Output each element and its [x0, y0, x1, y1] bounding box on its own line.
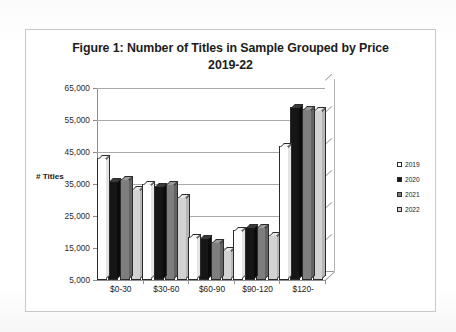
y-axis-tick-label: 65,000 [65, 83, 90, 93]
x-axis-category-label: $30-60 [153, 284, 179, 294]
bar-2022-$90-120[interactable] [268, 235, 278, 280]
bar-2019-$60-90[interactable] [188, 237, 198, 280]
y-axis-back-edge [334, 79, 335, 271]
bar-side-face [151, 181, 155, 279]
chart-title-line-2: 2019-22 [38, 57, 423, 74]
chart-title-line-1: Figure 1: Number of Titles in Sample Gro… [38, 40, 423, 57]
bar-2020-$30-60[interactable] [154, 186, 164, 280]
bar-side-face [106, 156, 110, 279]
bar-side-face [174, 181, 178, 279]
bar-side-face [242, 228, 246, 279]
bar-2019-$120-[interactable] [279, 146, 289, 280]
bar-side-face [129, 176, 133, 279]
y-axis-tick-label: 55,000 [65, 115, 90, 125]
bar-2021-$120-[interactable] [302, 109, 312, 280]
x-axis-category-label: $60-90 [199, 284, 225, 294]
x-axis-tick [325, 280, 326, 284]
bar-group [279, 88, 324, 280]
bar-side-face [254, 224, 258, 279]
y-axis-tick [93, 280, 97, 281]
legend-item-2020[interactable]: 2020 [397, 172, 439, 187]
bar-2020-$90-120[interactable] [245, 227, 255, 280]
y-axis-title: # Titles [36, 172, 64, 181]
bar-2022-$30-60[interactable] [177, 197, 187, 280]
bar-side-face [265, 224, 269, 279]
y-axis-tick-label: 15,000 [65, 243, 90, 253]
bar-2019-$30-60[interactable] [142, 184, 152, 280]
x-axis-category-label: $90-120 [242, 284, 273, 294]
chart-title: Figure 1: Number of Titles in Sample Gro… [38, 40, 423, 74]
bar-side-face [311, 106, 315, 279]
bar-group [188, 88, 233, 280]
bar-2019-$0-30[interactable] [97, 158, 107, 280]
legend-label-2022: 2022 [405, 206, 420, 213]
legend-swatch-2021 [397, 192, 402, 197]
x-axis-line [97, 280, 325, 281]
legend-swatch-2020 [397, 177, 402, 182]
y-axis-tick-label: 5,000 [69, 275, 90, 285]
y-axis-tick-label: 35,000 [65, 179, 90, 189]
bar-side-face [288, 143, 292, 279]
bar-group [142, 88, 187, 280]
bar-side-face [322, 108, 326, 279]
bar-side-face [197, 234, 201, 279]
x-axis-tick [234, 280, 235, 284]
y-axis-tick-label: 45,000 [65, 147, 90, 157]
legend-label-2021: 2021 [405, 191, 420, 198]
bar-2019-$90-120[interactable] [233, 230, 243, 280]
legend-swatch-2022 [397, 207, 402, 212]
x-axis-tick [143, 280, 144, 284]
bar-side-face [299, 104, 303, 279]
bar-group [97, 88, 142, 280]
bar-side-face [117, 178, 121, 279]
bar-group [233, 88, 278, 280]
legend-label-2020: 2020 [405, 176, 420, 183]
legend-swatch-2019 [397, 162, 402, 167]
bar-side-face [163, 183, 167, 279]
plot-area: 65,00055,00045,00035,00025,00015,0005,00… [97, 88, 325, 280]
bar-side-face [220, 239, 224, 279]
bar-side-face [208, 236, 212, 279]
x-axis-tick [279, 280, 280, 284]
x-axis-category-label: $0-30 [110, 284, 131, 294]
x-axis-category-label: $120- [292, 284, 313, 294]
chart-legend: 2019202020212022 [397, 157, 439, 217]
y-axis-tick-label: 25,000 [65, 211, 90, 221]
legend-item-2021[interactable]: 2021 [397, 187, 439, 202]
legend-item-2022[interactable]: 2022 [397, 202, 439, 217]
legend-label-2019: 2019 [405, 161, 420, 168]
x-axis-tick [188, 280, 189, 284]
legend-item-2019[interactable]: 2019 [397, 157, 439, 172]
bar-2021-$60-90[interactable] [211, 242, 221, 280]
bar-2021-$0-30[interactable] [120, 179, 130, 280]
